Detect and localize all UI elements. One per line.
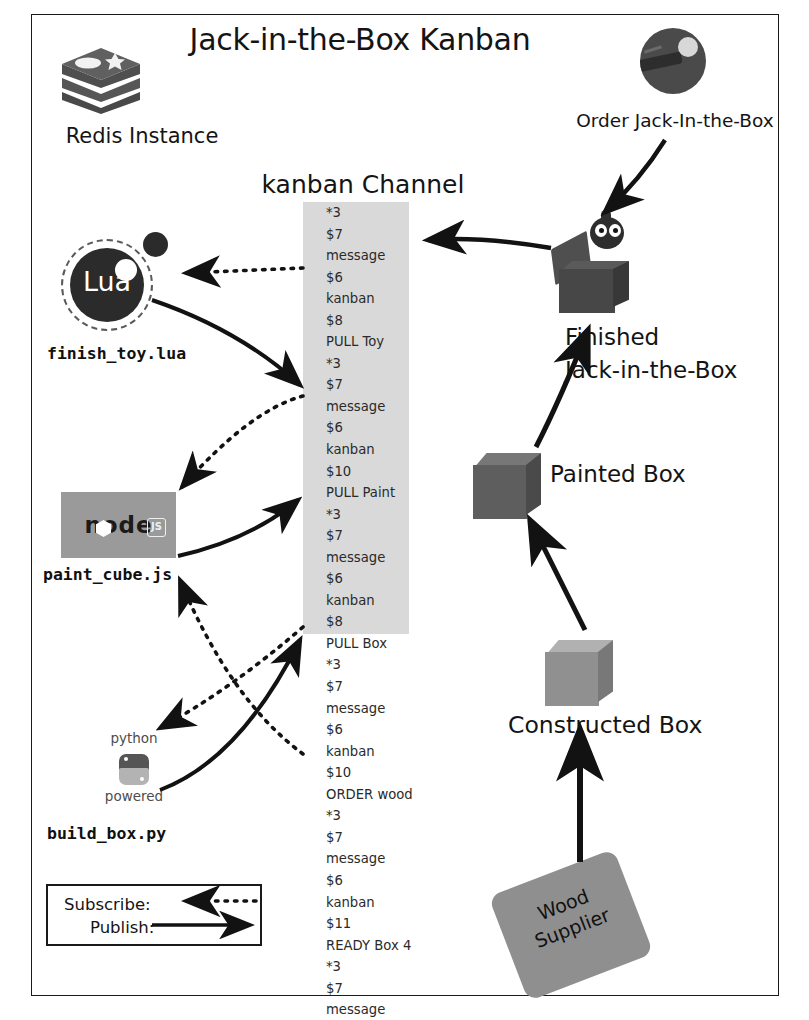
jib-pupil-left bbox=[599, 228, 604, 233]
channel-line: *3 bbox=[303, 654, 443, 676]
channel-line: kanban bbox=[303, 590, 443, 612]
channel-line: message bbox=[303, 245, 443, 267]
channel-line: *3 bbox=[303, 504, 443, 526]
channel-line: $6 bbox=[303, 267, 443, 289]
nodejs-logo-icon: node JS bbox=[61, 492, 176, 558]
lua-logo-text: Lua bbox=[70, 268, 144, 295]
python-file-label: build_box.py bbox=[47, 824, 166, 843]
channel-line: $8 bbox=[303, 310, 443, 332]
channel-line: $6 bbox=[303, 568, 443, 590]
channel-line: $7 bbox=[303, 827, 443, 849]
lua-file-label: finish_toy.lua bbox=[47, 344, 186, 363]
lua-logo-icon: Lua bbox=[57, 228, 177, 332]
legend-subscribe-label: Subscribe: bbox=[64, 895, 151, 914]
channel-line: $7 bbox=[303, 525, 443, 547]
channel-heading: kanban Channel bbox=[238, 170, 488, 199]
painted-box-label: Painted Box bbox=[550, 461, 686, 487]
globe-antenna bbox=[644, 45, 662, 53]
channel-line: message bbox=[303, 396, 443, 418]
channel-line: PULL Box bbox=[303, 633, 443, 655]
jib-box-side bbox=[613, 261, 629, 307]
channel-line: message bbox=[303, 999, 443, 1020]
python-logo-icon: python powered bbox=[95, 730, 173, 808]
node-file-label: paint_cube.js bbox=[43, 565, 172, 584]
jib-pupil-right bbox=[613, 228, 618, 233]
channel-line: $6 bbox=[303, 719, 443, 741]
channel-line: kanban bbox=[303, 288, 443, 310]
page-title: Jack-in-the-Box Kanban bbox=[150, 22, 570, 57]
python-eye-top bbox=[124, 757, 128, 761]
dark-cube-icon bbox=[473, 453, 541, 519]
lua-dot bbox=[143, 232, 168, 257]
channel-line: kanban bbox=[303, 741, 443, 763]
channel-line: $6 bbox=[303, 870, 443, 892]
channel-line: $11 bbox=[303, 913, 443, 935]
channel-line: $10 bbox=[303, 762, 443, 784]
cube-front bbox=[473, 465, 527, 519]
channel-line: *3 bbox=[303, 353, 443, 375]
channel-line: *3 bbox=[303, 202, 443, 224]
python-bottom-word: powered bbox=[95, 788, 173, 804]
channel-line: $6 bbox=[303, 417, 443, 439]
channel-line: READY Box 4 bbox=[303, 935, 443, 957]
channel-line: ORDER wood bbox=[303, 784, 443, 806]
channel-line: message bbox=[303, 698, 443, 720]
channel-line: $7 bbox=[303, 978, 443, 1000]
light-cube-icon bbox=[545, 640, 613, 706]
channel-message-list: *3$7message$6kanban$8PULL Toy*3$7message… bbox=[303, 202, 443, 1020]
globe-band bbox=[640, 51, 683, 72]
constructed-box-label: Constructed Box bbox=[508, 711, 702, 739]
order-label: Order Jack-In-the-Box bbox=[530, 110, 809, 131]
redis-label: Redis Instance bbox=[47, 124, 237, 148]
finished-label-line1: Finished bbox=[565, 324, 659, 350]
channel-line: kanban bbox=[303, 439, 443, 461]
globe-highlight bbox=[678, 37, 698, 57]
channel-line: message bbox=[303, 547, 443, 569]
channel-line: $7 bbox=[303, 676, 443, 698]
legend-box: Subscribe: Publish: bbox=[46, 884, 262, 946]
channel-line: $10 bbox=[303, 461, 443, 483]
jib-box-front bbox=[559, 269, 615, 313]
legend-publish-label: Publish: bbox=[90, 918, 154, 937]
channel-line: *3 bbox=[303, 805, 443, 827]
customer-globe-icon bbox=[640, 28, 706, 94]
python-top-word: python bbox=[95, 730, 173, 746]
channel-line: $7 bbox=[303, 374, 443, 396]
channel-line: PULL Toy bbox=[303, 331, 443, 353]
nodejs-js-badge: JS bbox=[147, 518, 166, 537]
channel-line: message bbox=[303, 848, 443, 870]
jack-in-the-box-icon bbox=[551, 213, 639, 321]
channel-line: $7 bbox=[303, 224, 443, 246]
cube-front bbox=[545, 652, 599, 706]
redis-stack-icon bbox=[58, 48, 144, 114]
finished-label-line2: Jack-in-the-Box bbox=[565, 357, 737, 383]
python-eye-bottom bbox=[140, 777, 144, 781]
channel-line: kanban bbox=[303, 892, 443, 914]
channel-line: $8 bbox=[303, 611, 443, 633]
python-glyph-bottom bbox=[119, 768, 149, 785]
channel-line: PULL Paint bbox=[303, 482, 443, 504]
channel-line: *3 bbox=[303, 956, 443, 978]
diagram-canvas: Jack-in-the-Box Kanban Redis Instance ka… bbox=[0, 0, 809, 1020]
